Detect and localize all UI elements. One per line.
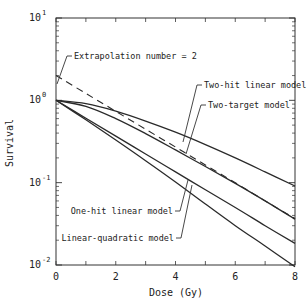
x-tick-label: 6 (232, 271, 238, 282)
x-tick-label: 0 (53, 271, 59, 282)
label-two-hit: Two-hit linear model (204, 80, 306, 90)
y-tick-label: 10 (29, 12, 41, 23)
label-lq: Linear-quadratic model (61, 233, 174, 243)
y-axis-label: Survival (4, 119, 15, 167)
annotation-two-target: Two-target model (186, 100, 290, 154)
annotation-extrapolation: Extrapolation number = 2 (57, 51, 197, 84)
series-two-target-model (56, 100, 295, 219)
annotation-one-hit: One-hit linear model (71, 180, 188, 216)
survival-chart: 0246810110010-110-2 Extrapolation number… (0, 0, 307, 308)
y-tick-exponent: 0 (42, 91, 46, 99)
label-two-target: Two-target model (208, 100, 290, 110)
x-axis-label: Dose (Gy) (149, 287, 203, 298)
y-tick-exponent: -2 (42, 256, 50, 264)
x-tick-label: 2 (113, 271, 119, 282)
x-tick-label: 4 (172, 271, 178, 282)
label-extrapolation: Extrapolation number = 2 (74, 51, 197, 61)
series-one-hit-linear-model (56, 100, 295, 243)
y-tick-label: 10 (29, 94, 41, 105)
label-one-hit: One-hit linear model (71, 206, 173, 216)
y-tick-exponent: 1 (42, 9, 46, 17)
y-tick-label: 10 (29, 259, 41, 270)
y-tick-exponent: -1 (42, 174, 50, 182)
annotation-two-hit: Two-hit linear model (183, 80, 306, 142)
x-tick-label: 8 (292, 271, 298, 282)
y-tick-label: 10 (29, 177, 41, 188)
series-two-hit-linear-model (56, 100, 295, 186)
